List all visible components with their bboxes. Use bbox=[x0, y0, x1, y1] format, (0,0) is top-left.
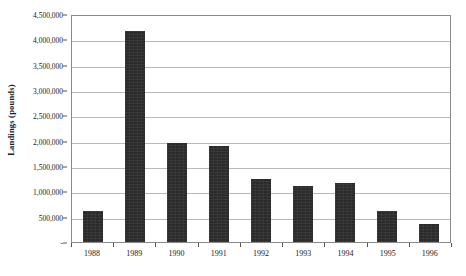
y-axis-tick-mark bbox=[63, 65, 67, 66]
y-axis-tick-labels: -500,0001,000,0001,500,0002,000,0002,500… bbox=[22, 0, 67, 245]
x-axis-tick-label: 1991 bbox=[198, 249, 240, 265]
y-axis-tick-label: 2,500,000 bbox=[33, 112, 63, 121]
bar[interactable] bbox=[293, 186, 312, 242]
y-axis-tick-label: 4,500,000 bbox=[33, 11, 63, 20]
y-axis-tick-mark bbox=[63, 243, 67, 244]
x-axis-tick-mark bbox=[155, 243, 156, 247]
y-axis-title: Landings (pounds) bbox=[0, 0, 22, 240]
y-axis-tick-label: 3,000,000 bbox=[33, 87, 63, 96]
y-axis-tick-mark bbox=[63, 167, 67, 168]
x-axis-tick-labels: 198819891990199119921993199419951996 bbox=[71, 249, 451, 265]
bar-chart: Landings (pounds) -500,0001,000,0001,500… bbox=[0, 0, 466, 276]
bar-slot bbox=[72, 16, 114, 242]
x-axis-tick-label: 1992 bbox=[240, 249, 282, 265]
y-axis-tick-mark bbox=[63, 40, 67, 41]
bar-slot bbox=[282, 16, 324, 242]
plot-area bbox=[71, 15, 451, 243]
bar[interactable] bbox=[419, 224, 438, 242]
x-axis-tick-mark bbox=[240, 243, 241, 247]
x-axis-tick-label: 1988 bbox=[71, 249, 113, 265]
bar-slot bbox=[366, 16, 408, 242]
bar-series bbox=[72, 16, 450, 242]
y-axis-tick-mark bbox=[63, 116, 67, 117]
bar[interactable] bbox=[83, 211, 102, 242]
bar-slot bbox=[324, 16, 366, 242]
y-axis-tick-mark bbox=[63, 192, 67, 193]
y-axis-tick-mark bbox=[63, 141, 67, 142]
x-axis-tick-label: 1994 bbox=[324, 249, 366, 265]
x-axis-tick-marks bbox=[71, 243, 451, 248]
y-axis-tick-mark bbox=[63, 15, 67, 16]
x-axis-tick-label: 1993 bbox=[282, 249, 324, 265]
bar-slot bbox=[198, 16, 240, 242]
bar-slot bbox=[240, 16, 282, 242]
bar-slot bbox=[408, 16, 450, 242]
bar[interactable] bbox=[377, 211, 396, 242]
x-axis-tick-mark bbox=[198, 243, 199, 247]
x-axis-tick-mark bbox=[451, 243, 452, 247]
x-axis-tick-label: 1989 bbox=[113, 249, 155, 265]
y-axis-tick-mark bbox=[63, 217, 67, 218]
bar[interactable] bbox=[125, 31, 144, 242]
x-axis-tick-mark bbox=[282, 243, 283, 247]
x-axis-tick-mark bbox=[367, 243, 368, 247]
y-axis-tick-label: 2,000,000 bbox=[33, 137, 63, 146]
y-axis-title-label: Landings (pounds) bbox=[6, 84, 16, 156]
x-axis-tick-mark bbox=[324, 243, 325, 247]
y-axis-tick-label: 3,500,000 bbox=[33, 61, 63, 70]
x-axis-tick-mark bbox=[113, 243, 114, 247]
x-axis-tick-label: 1996 bbox=[409, 249, 451, 265]
x-axis-tick-mark bbox=[409, 243, 410, 247]
x-axis-tick-label: 1990 bbox=[155, 249, 197, 265]
bar[interactable] bbox=[209, 146, 228, 242]
y-axis-tick-mark bbox=[63, 91, 67, 92]
bar[interactable] bbox=[167, 143, 186, 242]
x-axis-tick-label: 1995 bbox=[367, 249, 409, 265]
bar[interactable] bbox=[251, 179, 270, 242]
y-axis-tick-label: 1,000,000 bbox=[33, 188, 63, 197]
bar[interactable] bbox=[335, 183, 354, 242]
bar-slot bbox=[156, 16, 198, 242]
bar-slot bbox=[114, 16, 156, 242]
y-axis-tick-label: 1,500,000 bbox=[33, 163, 63, 172]
x-axis-tick-mark bbox=[71, 243, 72, 247]
y-axis-tick-label: 4,000,000 bbox=[33, 36, 63, 45]
y-axis-tick-label: 500,000 bbox=[39, 213, 63, 222]
